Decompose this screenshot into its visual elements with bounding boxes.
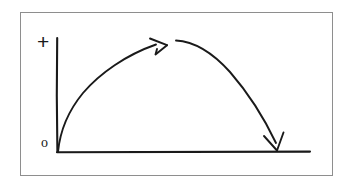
mid-arrowhead-lower-barb [156, 45, 168, 54]
sketch-canvas: + o [0, 0, 351, 187]
end-arrowhead-right-barb [277, 133, 284, 151]
vertical-axis [57, 38, 58, 152]
horizontal-axis [57, 152, 310, 153]
axis-label-positive: + [37, 31, 49, 52]
trajectory-curve-ascending [58, 45, 156, 153]
end-arrowhead-left-barb [264, 136, 277, 151]
mid-arrowhead-upper-barb [150, 39, 167, 46]
trajectory-diagram [0, 0, 351, 187]
axis-label-origin: o [41, 136, 48, 150]
trajectory-curve-descending [176, 41, 276, 144]
